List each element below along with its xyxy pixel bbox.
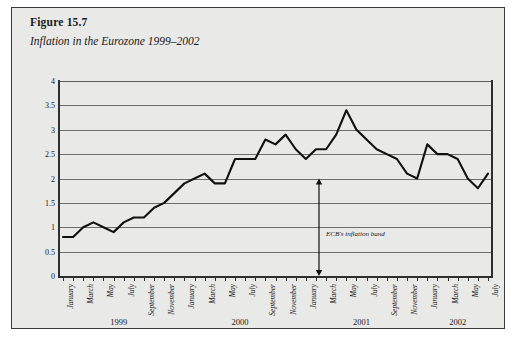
figure-caption: Figure 15.7 Inflation in the Eurozone 19… — [30, 15, 450, 49]
x-tick — [407, 277, 408, 281]
x-tick — [225, 277, 226, 281]
x-tick — [387, 277, 388, 281]
x-tick — [367, 277, 368, 281]
month-label: January — [187, 284, 196, 309]
band-arrow-head-bottom — [316, 270, 322, 276]
x-tick — [93, 277, 94, 281]
ecb-band-label: ECB's inflation band — [326, 230, 385, 238]
x-tick — [134, 277, 135, 281]
month-label: May — [228, 284, 237, 297]
x-tick — [215, 277, 216, 281]
x-tick — [245, 277, 246, 281]
x-axis-ticks — [59, 277, 492, 282]
month-label: July — [127, 284, 136, 297]
month-label: January — [430, 284, 439, 309]
month-label: July — [370, 284, 379, 297]
x-tick — [356, 277, 357, 281]
x-tick — [296, 277, 297, 281]
y-tick-label: 2.5 — [45, 150, 55, 159]
month-label: November — [289, 284, 298, 315]
x-tick — [286, 277, 287, 281]
y-tick-label: 2 — [51, 174, 55, 183]
x-tick — [103, 277, 104, 281]
month-label: July — [248, 284, 257, 297]
x-tick — [124, 277, 125, 281]
figure-number: Figure 15.7 — [30, 15, 450, 29]
figure-title: Inflation in the Eurozone 1999–2002 — [30, 34, 450, 48]
x-tick — [346, 277, 347, 281]
x-tick — [154, 277, 155, 281]
x-axis-year-labels: 1999200020012002 — [59, 313, 492, 327]
figure-frame: Figure 15.7 Inflation in the Eurozone 19… — [11, 7, 505, 329]
x-tick — [336, 277, 337, 281]
x-tick — [306, 277, 307, 281]
year-label: 2002 — [449, 317, 466, 327]
x-tick — [174, 277, 175, 281]
month-label: November — [167, 284, 176, 315]
month-label: May — [471, 284, 480, 297]
y-tick-label: 3.5 — [45, 101, 55, 110]
x-tick — [184, 277, 185, 281]
series-plot — [59, 81, 492, 277]
x-tick — [478, 277, 479, 281]
ecb-band-arrow — [308, 173, 330, 281]
x-tick — [63, 277, 64, 281]
x-tick — [255, 277, 256, 281]
inflation-series-line — [63, 110, 488, 237]
x-tick — [276, 277, 277, 281]
month-label: March — [86, 284, 95, 304]
y-axis-tick-labels: 00.511.522.533.54 — [32, 81, 55, 276]
month-label: September — [390, 284, 399, 316]
x-tick — [73, 277, 74, 281]
month-label: July — [491, 284, 500, 297]
month-label: November — [410, 284, 419, 315]
x-tick — [397, 277, 398, 281]
month-label: September — [147, 284, 156, 316]
x-tick — [195, 277, 196, 281]
y-tick-label: 0.5 — [45, 247, 55, 256]
x-tick — [448, 277, 449, 281]
month-label: January — [66, 284, 75, 309]
x-tick — [144, 277, 145, 281]
y-tick-label: 0 — [51, 272, 55, 281]
x-tick — [458, 277, 459, 281]
x-tick — [265, 277, 266, 281]
year-label: 2000 — [232, 317, 249, 327]
month-label: March — [451, 284, 460, 304]
x-tick — [205, 277, 206, 281]
month-label: March — [329, 284, 338, 304]
x-tick — [488, 277, 489, 281]
x-tick — [235, 277, 236, 281]
month-label: March — [208, 284, 217, 304]
x-tick — [427, 277, 428, 281]
x-tick — [417, 277, 418, 281]
y-tick-label: 1.5 — [45, 198, 55, 207]
y-tick-label: 1 — [51, 223, 55, 232]
x-tick — [164, 277, 165, 281]
x-tick — [468, 277, 469, 281]
y-tick-label: 4 — [51, 77, 55, 86]
x-tick — [437, 277, 438, 281]
band-arrow-head-top — [316, 179, 322, 185]
y-tick-label: 3 — [51, 125, 55, 134]
month-label: May — [349, 284, 358, 297]
x-tick — [83, 277, 84, 281]
month-label: January — [309, 284, 318, 309]
x-tick — [114, 277, 115, 281]
year-label: 2001 — [353, 317, 370, 327]
x-tick — [377, 277, 378, 281]
year-label: 1999 — [110, 317, 127, 327]
month-label: September — [268, 284, 277, 316]
month-label: May — [106, 284, 115, 297]
